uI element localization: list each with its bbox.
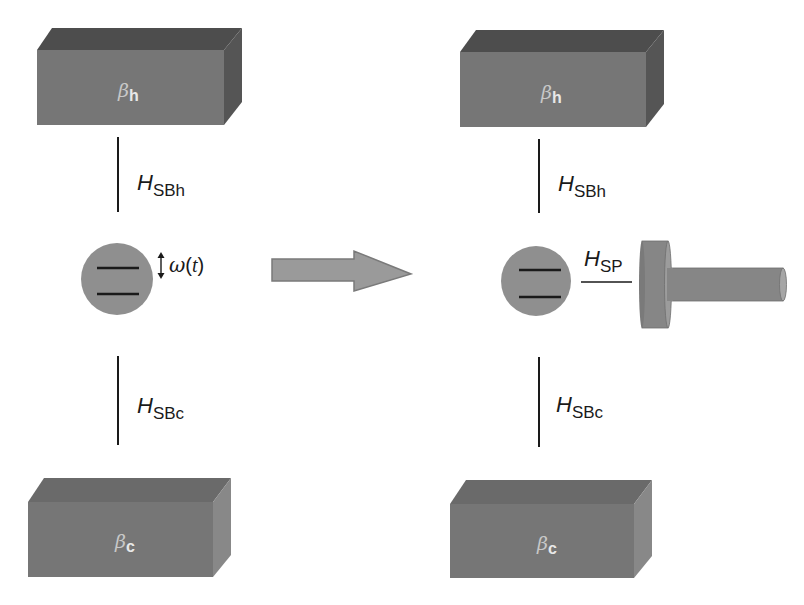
piston-disk-left bbox=[639, 241, 645, 328]
system-circle-left bbox=[81, 243, 153, 315]
two-level-system-right bbox=[501, 246, 571, 316]
hot-bath-left-top-face bbox=[37, 28, 242, 50]
coupling-label-hot-left: HSBh bbox=[137, 172, 185, 194]
omega-symbol: ω bbox=[169, 253, 185, 277]
piston-rod-end bbox=[780, 268, 787, 301]
paren-close: ) bbox=[198, 254, 205, 276]
hamiltonian-symbol: H bbox=[137, 393, 153, 418]
beta-symbol: β bbox=[541, 81, 552, 103]
transition-arrow-icon bbox=[272, 251, 411, 291]
subscript: SBc bbox=[572, 403, 603, 422]
coupling-label-cold-right: HSBc bbox=[556, 394, 603, 416]
cold-bath-right-label: βc bbox=[537, 534, 557, 553]
subscript: c bbox=[126, 538, 135, 555]
modulation-label: ω(t) bbox=[169, 255, 204, 275]
subscript: SBh bbox=[574, 182, 606, 201]
coupling-label-hot-right: HSBh bbox=[558, 173, 606, 195]
subscript: SP bbox=[600, 257, 623, 276]
beta-symbol: β bbox=[115, 530, 126, 552]
hot-bath-right-top-face bbox=[460, 30, 664, 52]
hamiltonian-symbol: H bbox=[556, 392, 572, 417]
hot-bath-left bbox=[37, 28, 242, 125]
coupling-label-piston: HSP bbox=[584, 248, 623, 270]
cold-bath-right bbox=[450, 480, 652, 578]
subscript: h bbox=[552, 89, 562, 106]
cold-bath-left bbox=[28, 478, 231, 577]
beta-symbol: β bbox=[118, 79, 129, 101]
piston-rod bbox=[666, 268, 783, 301]
modulation-double-arrow-icon bbox=[158, 252, 165, 279]
coupling-label-cold-left: HSBc bbox=[137, 395, 184, 417]
beta-symbol: β bbox=[537, 532, 548, 554]
subscript: SBh bbox=[153, 181, 185, 200]
subscript: c bbox=[548, 540, 557, 557]
piston-icon bbox=[639, 241, 787, 328]
hot-bath-right bbox=[460, 30, 664, 127]
system-circle-right bbox=[501, 246, 571, 316]
hot-bath-left-label: βh bbox=[118, 81, 139, 100]
hamiltonian-symbol: H bbox=[558, 171, 574, 196]
hamiltonian-symbol: H bbox=[137, 170, 153, 195]
subscript: SBc bbox=[153, 404, 184, 423]
cold-bath-right-top-face bbox=[450, 480, 652, 504]
hot-bath-right-label: βh bbox=[541, 83, 562, 102]
subscript: h bbox=[129, 87, 139, 104]
cold-bath-left-label: βc bbox=[115, 532, 135, 551]
two-level-system-left bbox=[81, 243, 153, 315]
cold-bath-left-top-face bbox=[28, 478, 231, 502]
hamiltonian-symbol: H bbox=[584, 246, 600, 271]
paren-open: ( bbox=[185, 254, 192, 276]
